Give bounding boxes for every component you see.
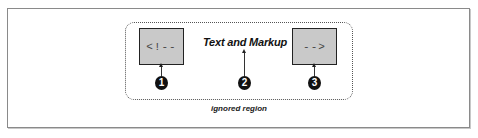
comment-end-box: --> — [292, 28, 337, 65]
content-label: Text and Markup — [200, 36, 290, 48]
callout-1: 1 — [155, 76, 168, 90]
callout-3: 3 — [308, 76, 321, 90]
arrow-3-icon — [314, 66, 315, 76]
comment-start-label: <!-- — [146, 41, 176, 53]
region-caption: ignored region — [189, 104, 289, 113]
comment-start-box: <!-- — [139, 28, 184, 65]
arrow-2-icon — [244, 52, 245, 76]
comment-end-label: --> — [303, 41, 326, 53]
arrow-1-icon — [161, 66, 162, 76]
callout-2: 2 — [238, 76, 251, 90]
